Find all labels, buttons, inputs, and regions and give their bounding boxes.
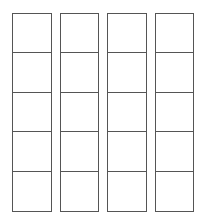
grid-cell-r4c3[interactable] bbox=[108, 132, 146, 172]
grid-column-3 bbox=[107, 13, 147, 212]
grid-column-2 bbox=[60, 13, 100, 212]
grid-cell-r5c2[interactable] bbox=[61, 172, 99, 211]
grid-container bbox=[12, 13, 194, 212]
grid-cell-r1c4[interactable] bbox=[156, 14, 194, 54]
grid-cell-r1c2[interactable] bbox=[61, 14, 99, 54]
grid-cell-r2c3[interactable] bbox=[108, 53, 146, 93]
grid-cell-r3c4[interactable] bbox=[156, 93, 194, 133]
grid-cell-r1c1[interactable] bbox=[13, 14, 51, 54]
grid-cell-r1c3[interactable] bbox=[108, 14, 146, 54]
grid-column-1 bbox=[12, 13, 52, 212]
grid-cell-r4c4[interactable] bbox=[156, 132, 194, 172]
grid-cell-r4c2[interactable] bbox=[61, 132, 99, 172]
grid-cell-r4c1[interactable] bbox=[13, 132, 51, 172]
grid-cell-r3c3[interactable] bbox=[108, 93, 146, 133]
grid-column-4 bbox=[155, 13, 195, 212]
grid-cell-r5c3[interactable] bbox=[108, 172, 146, 211]
grid-cell-r2c4[interactable] bbox=[156, 53, 194, 93]
grid-cell-r5c4[interactable] bbox=[156, 172, 194, 211]
grid-cell-r3c2[interactable] bbox=[61, 93, 99, 133]
grid-sheet bbox=[0, 0, 207, 222]
grid-cell-r5c1[interactable] bbox=[13, 172, 51, 211]
grid-cell-r2c2[interactable] bbox=[61, 53, 99, 93]
grid-cell-r3c1[interactable] bbox=[13, 93, 51, 133]
grid-cell-r2c1[interactable] bbox=[13, 53, 51, 93]
